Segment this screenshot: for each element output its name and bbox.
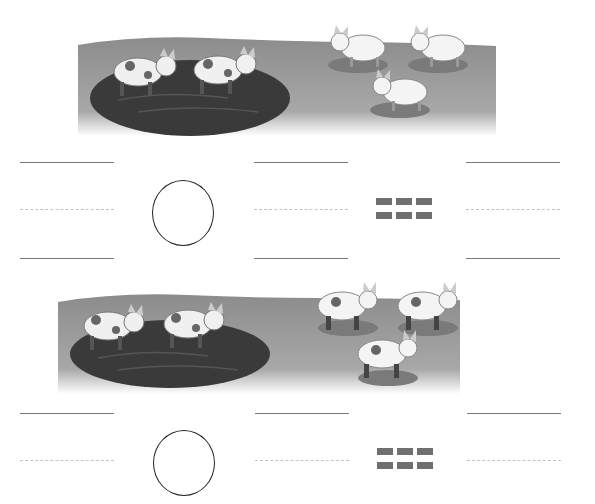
equals-sign-icon [376, 198, 432, 220]
problem-1-scene [78, 20, 496, 136]
operator-circle[interactable] [153, 430, 215, 496]
problem-2-scene [58, 278, 460, 394]
equals-sign-icon [377, 448, 433, 470]
operator-circle[interactable] [152, 180, 214, 246]
